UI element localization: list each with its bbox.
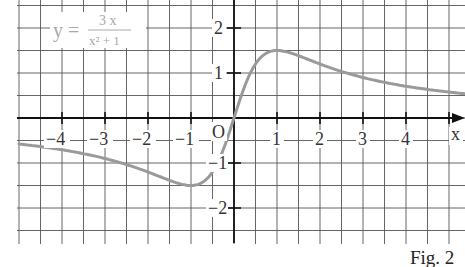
x-tick-label: −2	[132, 129, 151, 149]
figure-caption: Fig. 2	[410, 247, 454, 267]
x-tick-label: −3	[89, 129, 108, 149]
x-tick-label: −4	[46, 129, 65, 149]
y-tick-label: 2	[214, 18, 223, 38]
x-axis-arrow-icon	[452, 113, 465, 123]
function-formula: y = 3 x x² + 1	[50, 12, 146, 48]
formula-numerator: 3 x	[99, 13, 117, 28]
x-tick-label: 3	[358, 129, 367, 149]
x-tick-label: 4	[401, 129, 410, 149]
formula-lhs: y =	[53, 19, 79, 42]
x-tick-label: 1	[272, 129, 281, 149]
y-tick-label: −1	[208, 153, 227, 173]
y-tick-label: −2	[208, 198, 227, 218]
x-axis-label: x	[451, 124, 460, 144]
origin-label: O	[212, 122, 225, 142]
y-tick-label: 1	[214, 63, 223, 83]
x-tick-label: 2	[315, 129, 324, 149]
formula-denominator: x² + 1	[89, 33, 120, 48]
function-graph: −4−3−2−1123421−1−2 O x y = 3 x x² + 1 Fi…	[0, 0, 465, 267]
x-tick-label: −1	[175, 129, 194, 149]
